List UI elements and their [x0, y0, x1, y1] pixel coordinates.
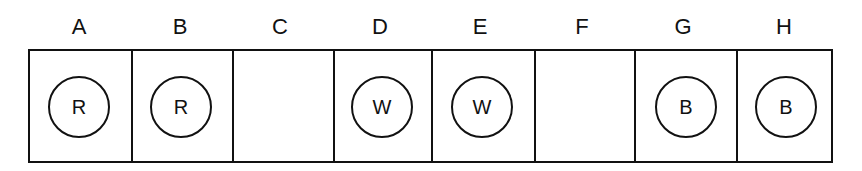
cell-label-e: E: [460, 14, 500, 40]
cell-c: [232, 51, 333, 161]
cell-d: W: [333, 51, 431, 161]
cell-a: R: [30, 51, 131, 161]
cell-label-d: D: [360, 14, 400, 40]
cell-label-c: C: [260, 14, 300, 40]
disk-circle: R: [150, 76, 212, 138]
cell-e: W: [431, 51, 534, 161]
cell-label-h: H: [764, 14, 804, 40]
cell-label-a: A: [59, 14, 99, 40]
cell-b: R: [131, 51, 232, 161]
cell-h: B: [736, 51, 835, 161]
cell-label-f: F: [562, 14, 602, 40]
disk-circle: B: [755, 76, 817, 138]
cell-label-g: G: [663, 14, 703, 40]
disk-circle: R: [48, 76, 110, 138]
disk-circle: W: [351, 76, 413, 138]
cell-row: R R W W B B: [28, 49, 833, 163]
cell-label-b: B: [160, 14, 200, 40]
disk-circle: B: [655, 76, 717, 138]
disk-circle: W: [451, 76, 513, 138]
cell-f: [534, 51, 634, 161]
cell-g: B: [634, 51, 736, 161]
